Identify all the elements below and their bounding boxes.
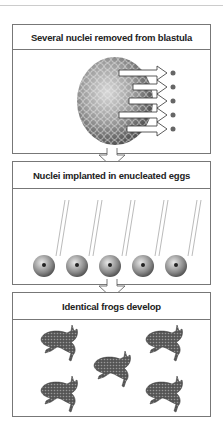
panel-title: Several nuclei removed from blastula — [13, 25, 210, 50]
panel-identical-frogs: Identical frogs develop — [12, 292, 211, 417]
frog-icon — [146, 325, 183, 361]
frog-icon — [41, 325, 78, 361]
panel-title: Nuclei implanted in enucleated eggs — [13, 162, 210, 189]
frog-icon — [146, 376, 183, 412]
panel-implanted-eggs: Nuclei implanted in enucleated eggs — [12, 161, 211, 285]
panel-blastula: Several nuclei removed from blastula — [12, 24, 211, 154]
frogs-illustration — [13, 319, 210, 416]
eggs-illustration — [13, 188, 210, 284]
frog-icon — [94, 351, 131, 387]
panel-title: Identical frogs develop — [13, 293, 210, 320]
blastula-illustration — [13, 49, 210, 153]
page-header-rule — [0, 5, 223, 6]
frog-icon — [41, 376, 78, 412]
